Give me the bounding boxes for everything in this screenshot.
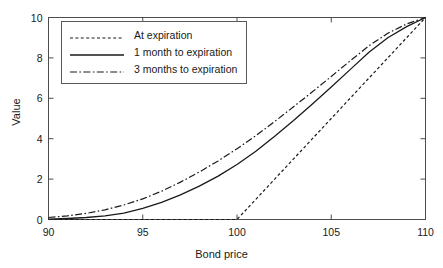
legend-item: At expiration xyxy=(69,27,237,44)
y-tick-label: 0 xyxy=(3,215,43,226)
y-tick-label: 8 xyxy=(3,53,43,64)
legend-label: At expiration xyxy=(134,30,192,41)
legend-line-sample-0 xyxy=(69,30,125,42)
legend-label: 3 months to expiration xyxy=(134,64,237,75)
x-tick-label: 110 xyxy=(406,227,443,238)
y-tick-label: 10 xyxy=(3,13,43,24)
y-axis-label: Value xyxy=(10,82,22,142)
x-tick-label: 105 xyxy=(311,227,351,238)
legend-item: 3 months to expiration xyxy=(69,61,237,78)
y-tick-label: 2 xyxy=(3,174,43,185)
x-tick-label: 100 xyxy=(217,227,257,238)
x-tick-label: 90 xyxy=(29,227,69,238)
x-tick-label: 95 xyxy=(123,227,163,238)
y-tick-label: 4 xyxy=(3,134,43,145)
legend-item: 1 month to expiration xyxy=(69,44,237,61)
legend-line-sample-1 xyxy=(69,47,125,59)
legend-label: 1 month to expiration xyxy=(134,47,232,58)
legend-line-sample-2 xyxy=(69,64,125,76)
y-tick-label: 6 xyxy=(3,93,43,104)
chart-figure: 0246810 9095100105110 Value Bond price A… xyxy=(0,0,443,268)
x-axis-label: Bond price xyxy=(0,248,443,260)
chart-legend: At expiration1 month to expiration3 mont… xyxy=(61,21,247,84)
